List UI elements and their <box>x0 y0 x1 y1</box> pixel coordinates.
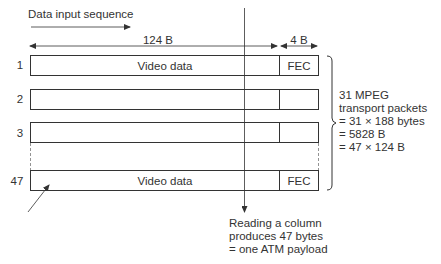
packet-row: 3 <box>17 123 319 143</box>
video-data-label: Video data <box>138 175 193 187</box>
packet-group-brace <box>327 56 336 190</box>
packet-row: 2 <box>17 90 319 110</box>
fec-label: FEC <box>288 175 311 187</box>
row-number: 3 <box>17 127 23 139</box>
annotation-line: = one ATM payload <box>229 243 328 255</box>
annotation-line: produces 47 bytes <box>229 230 323 242</box>
packet-box <box>31 90 319 110</box>
annotation-line: 31 MPEG <box>339 89 389 101</box>
annotation-line: = 31 × 188 bytes <box>339 115 425 127</box>
annotation-line: = 47 × 124 B <box>339 141 405 153</box>
annotation-line: = 5828 B <box>339 128 386 140</box>
fec-width-label: 4 B <box>290 34 308 46</box>
video-data-label: Video data <box>138 60 193 72</box>
row-number: 2 <box>17 93 23 105</box>
annotation-line: Reading a column <box>229 217 322 229</box>
packet-row: 1 Video data FEC <box>17 56 319 76</box>
row-number: 1 <box>17 59 23 71</box>
fec-label: FEC <box>288 60 311 72</box>
annotation-line: transport packets <box>339 102 427 114</box>
brace-annotation: 31 MPEG transport packets = 31 × 188 byt… <box>339 89 427 153</box>
data-width-label: 124 B <box>143 34 173 46</box>
interleaver-diagram: Data input sequence 124 B 4 B 1 Video da… <box>0 0 441 264</box>
packet-row: 47 Video data FEC <box>11 171 319 191</box>
packet-box <box>31 123 319 143</box>
diagonal-pointer-arrow <box>28 185 49 212</box>
row-number: 47 <box>11 175 24 187</box>
column-annotation: Reading a column produces 47 bytes = one… <box>229 217 328 255</box>
sequence-label: Data input sequence <box>28 8 134 20</box>
